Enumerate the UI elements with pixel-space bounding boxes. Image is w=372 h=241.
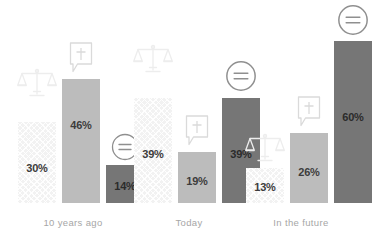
- speech-bubble-cross-icon: [294, 95, 325, 129]
- bar-value-label: 30%: [18, 162, 56, 174]
- bar-item-equality[interactable]: 60%: [334, 0, 372, 203]
- plot-area: 30% 46%: [0, 0, 353, 203]
- bar-value-label: 39%: [134, 148, 172, 160]
- bar-rect: [62, 79, 100, 203]
- bar-value-label: 19%: [178, 175, 216, 187]
- bar-value-label: 60%: [334, 111, 372, 123]
- bar-group-in-the-future: 13% 26%: [240, 0, 362, 203]
- bar-value-label: 26%: [290, 166, 328, 178]
- bar-item-religion[interactable]: 19%: [178, 0, 216, 203]
- scales-balance-icon: [245, 131, 285, 165]
- speech-bubble-cross-icon: [66, 41, 97, 75]
- bar-group-today: 39% 19%: [128, 0, 250, 203]
- bar-value-label: 13%: [246, 181, 284, 193]
- bar-item-religion[interactable]: 26%: [290, 0, 328, 203]
- bar-item-justice[interactable]: 13%: [246, 0, 284, 203]
- x-axis-label-in-the-future: In the future: [240, 217, 362, 228]
- bar-item-justice[interactable]: 30%: [18, 0, 56, 203]
- scales-balance-icon: [17, 66, 57, 100]
- x-axis-label-today: Today: [128, 217, 250, 228]
- scales-balance-icon: [133, 42, 173, 76]
- bar-item-justice[interactable]: 39%: [134, 0, 172, 203]
- circled-equals-icon: [336, 3, 370, 37]
- bar-group-10-years-ago: 30% 46%: [12, 0, 134, 203]
- x-axis: 10 years ago Today In the future: [0, 203, 353, 241]
- bar-item-religion[interactable]: 46%: [62, 0, 100, 203]
- x-axis-label-10-years-ago: 10 years ago: [12, 217, 134, 228]
- bar-value-label: 46%: [62, 119, 100, 131]
- speech-bubble-cross-icon: [182, 114, 213, 148]
